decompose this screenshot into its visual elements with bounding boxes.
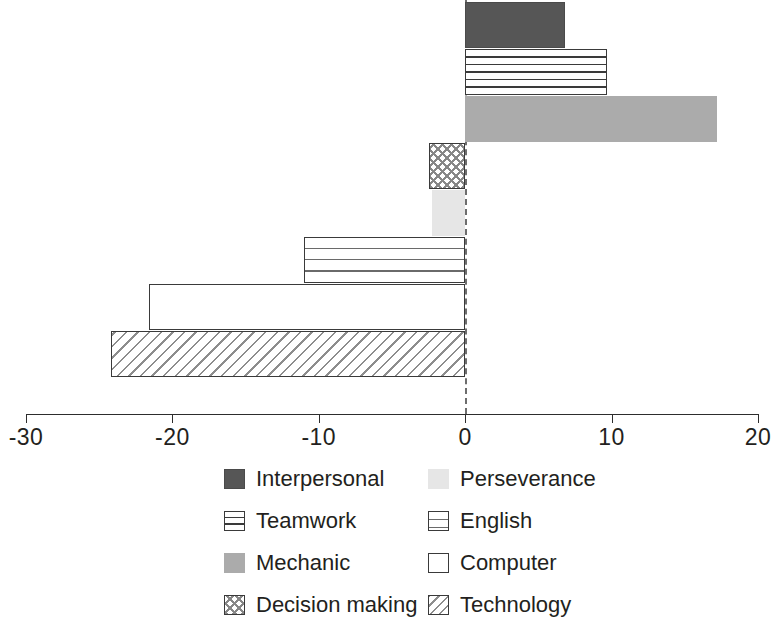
legend-swatch-icon bbox=[428, 553, 449, 573]
legend-label: Decision making bbox=[256, 593, 417, 617]
x-tick-neg10 bbox=[319, 414, 320, 423]
plot-area bbox=[0, 0, 772, 400]
x-tick-neg20 bbox=[172, 414, 173, 423]
legend-item-english[interactable]: English bbox=[428, 504, 532, 538]
bar-technology bbox=[111, 331, 465, 377]
x-tick-10 bbox=[612, 414, 613, 423]
horizontal-bar-chart: -30-20-1001020 InterpersonalTeamworkMech… bbox=[0, 0, 772, 622]
bar-teamwork bbox=[465, 49, 607, 95]
x-tick-label-10: 10 bbox=[598, 424, 625, 450]
legend-label: Mechanic bbox=[256, 551, 350, 575]
legend-label: Computer bbox=[460, 551, 557, 575]
legend-swatch-icon bbox=[224, 511, 245, 531]
x-tick-label-20: 20 bbox=[745, 424, 772, 450]
x-tick-0 bbox=[465, 414, 466, 423]
bar-mechanic bbox=[465, 96, 717, 142]
legend-label: Interpersonal bbox=[256, 467, 384, 491]
x-tick-label-0: 0 bbox=[459, 424, 472, 450]
legend-item-perseverance[interactable]: Perseverance bbox=[428, 462, 596, 496]
bar-english bbox=[304, 237, 465, 283]
x-tick-label-neg30: -30 bbox=[9, 424, 44, 450]
legend-item-teamwork[interactable]: Teamwork bbox=[224, 504, 356, 538]
legend-label: Perseverance bbox=[460, 467, 596, 491]
legend-swatch-icon bbox=[224, 595, 245, 615]
legend-label: English bbox=[460, 509, 532, 533]
legend-swatch-icon bbox=[428, 469, 449, 489]
bar-interpersonal bbox=[465, 2, 565, 48]
legend-swatch-icon bbox=[224, 469, 245, 489]
legend-item-technology[interactable]: Technology bbox=[428, 588, 571, 622]
legend-swatch-icon bbox=[428, 511, 449, 531]
legend-swatch-icon bbox=[224, 553, 245, 573]
legend-item-decision-making[interactable]: Decision making bbox=[224, 588, 417, 622]
bar-perseverance bbox=[432, 190, 466, 236]
bar-decision-making bbox=[429, 143, 466, 189]
bar-computer bbox=[149, 284, 465, 330]
legend-item-computer[interactable]: Computer bbox=[428, 546, 557, 580]
x-tick-label-neg20: -20 bbox=[155, 424, 190, 450]
legend-item-mechanic[interactable]: Mechanic bbox=[224, 546, 350, 580]
legend-label: Teamwork bbox=[256, 509, 356, 533]
x-tick-20 bbox=[758, 414, 759, 423]
x-tick-neg30 bbox=[26, 414, 27, 423]
legend-item-interpersonal[interactable]: Interpersonal bbox=[224, 462, 384, 496]
x-axis: -30-20-1001020 bbox=[0, 400, 772, 460]
legend-swatch-icon bbox=[428, 595, 449, 615]
x-axis-line bbox=[26, 414, 758, 415]
x-tick-label-neg10: -10 bbox=[301, 424, 336, 450]
chart-legend: InterpersonalTeamworkMechanicDecision ma… bbox=[0, 462, 772, 622]
legend-label: Technology bbox=[460, 593, 571, 617]
